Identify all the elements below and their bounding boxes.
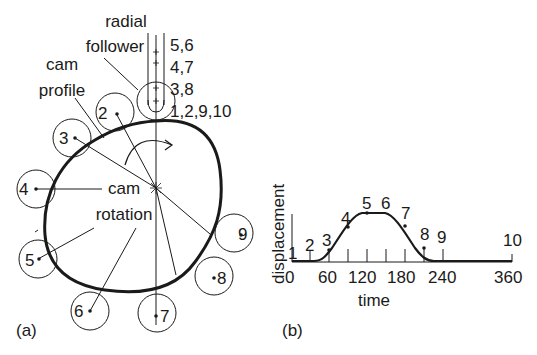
svg-text:3: 3 bbox=[322, 231, 331, 250]
cam-center-icon bbox=[150, 182, 162, 194]
x-tick-labels: 0 60 120 180 240 360 bbox=[285, 268, 522, 287]
label-radial: radial bbox=[105, 12, 147, 31]
label-profile: profile bbox=[39, 81, 85, 100]
label-follower: follower bbox=[86, 37, 145, 56]
svg-text:7: 7 bbox=[401, 204, 410, 223]
panel-b: displacement 1 2 3 4 5 6 7 bbox=[269, 184, 522, 340]
roller-label-8: 8 bbox=[217, 269, 226, 288]
svg-text:60: 60 bbox=[318, 268, 337, 287]
label-cam-rotation-2: rotation bbox=[96, 205, 153, 224]
roller-label-2: 2 bbox=[98, 104, 107, 123]
panel-b-caption: (b) bbox=[282, 321, 303, 340]
roller-7 bbox=[138, 294, 176, 332]
roller-label-5: 5 bbox=[25, 251, 34, 270]
svg-text:2: 2 bbox=[305, 236, 314, 255]
x-axis-label: time bbox=[358, 291, 390, 310]
cam-follower-diagram: radial follower cam profile cam rotation… bbox=[0, 0, 537, 355]
label-cam-rotation-1: cam bbox=[108, 179, 140, 198]
roller-label-6: 6 bbox=[74, 302, 83, 321]
follower-pos-1-2-9-10: 1,2,9,10 bbox=[170, 102, 231, 121]
follower-pos-5-6: 5,6 bbox=[170, 36, 194, 55]
svg-text:0: 0 bbox=[285, 268, 294, 287]
svg-text:6: 6 bbox=[381, 194, 390, 213]
svg-text:4: 4 bbox=[341, 209, 350, 228]
roller-label-3: 3 bbox=[59, 129, 68, 148]
svg-text:180: 180 bbox=[387, 268, 415, 287]
svg-text:1: 1 bbox=[288, 244, 297, 263]
svg-text:10: 10 bbox=[503, 231, 522, 250]
follower-pos-4-7: 4,7 bbox=[170, 58, 194, 77]
roller-8 bbox=[195, 257, 233, 295]
panel-a-caption: (a) bbox=[16, 321, 37, 340]
svg-text:9: 9 bbox=[437, 228, 446, 247]
roller-label-4: 4 bbox=[19, 180, 28, 199]
svg-text:120: 120 bbox=[348, 268, 376, 287]
svg-text:240: 240 bbox=[428, 268, 456, 287]
label-cam: cam bbox=[46, 55, 78, 74]
svg-text:8: 8 bbox=[420, 225, 429, 244]
follower-pos-3-8: 3,8 bbox=[170, 80, 194, 99]
roller-label-7: 7 bbox=[160, 307, 169, 326]
svg-text:360: 360 bbox=[494, 268, 522, 287]
roller-label-9: 9 bbox=[238, 225, 247, 244]
svg-text:5: 5 bbox=[362, 194, 371, 213]
